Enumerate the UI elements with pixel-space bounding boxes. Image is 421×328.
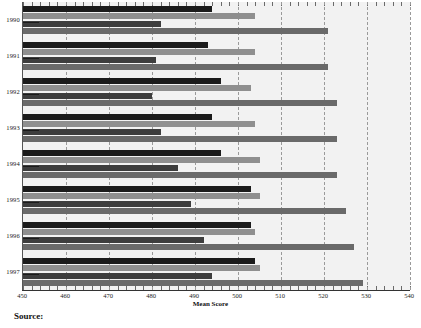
y-axis-label-1992: 1992 — [0, 88, 20, 95]
source-label: Source: — [14, 311, 43, 321]
bar-1996-series3 — [23, 237, 204, 243]
y-axis-label-1991: 1991 — [0, 52, 20, 59]
bar-1995-series3 — [23, 201, 191, 207]
bar-1996-series4 — [23, 244, 354, 250]
x-tick-label-540: 540 — [392, 292, 421, 299]
bar-1991-series1 — [23, 42, 208, 48]
x-tick-label-460: 460 — [48, 292, 82, 299]
bar-1993-series2 — [23, 121, 255, 127]
bar-group-1995 — [23, 182, 410, 218]
bar-1994-series1 — [23, 150, 221, 156]
bar-1994-series2 — [23, 157, 260, 163]
y-axis-label-1996: 1996 — [0, 232, 20, 239]
bar-1994-series3 — [23, 165, 178, 171]
y-axis-label-1990: 1990 — [0, 16, 20, 23]
x-axis-title: Mean Score — [0, 300, 421, 308]
x-tick-label-510: 510 — [263, 292, 297, 299]
x-tick-label-530: 530 — [349, 292, 383, 299]
bar-1996-series1 — [23, 222, 251, 228]
bar-group-1991 — [23, 38, 410, 74]
bar-1991-series3 — [23, 57, 156, 63]
y-axis-label-1997: 1997 — [0, 268, 20, 275]
bar-1997-series4 — [23, 280, 363, 286]
bar-1997-series1 — [23, 258, 255, 264]
y-axis-leader-1990 — [23, 22, 39, 23]
bar-1992-series1 — [23, 78, 221, 84]
bar-1992-series2 — [23, 85, 251, 91]
y-axis-year-labels: 19901991199219931994199519961997 — [0, 2, 22, 290]
plot-area — [22, 2, 410, 290]
bar-1990-series1 — [23, 6, 212, 12]
y-axis-label-1995: 1995 — [0, 196, 20, 203]
bar-1993-series3 — [23, 129, 161, 135]
bar-group-1992 — [23, 74, 410, 110]
bar-1992-series4 — [23, 100, 337, 106]
y-axis-leader-1995 — [23, 202, 39, 203]
bar-1990-series3 — [23, 21, 161, 27]
bar-group-1997 — [23, 254, 410, 290]
bar-1991-series2 — [23, 49, 255, 55]
x-tick-label-490: 490 — [177, 292, 211, 299]
bar-1997-series2 — [23, 265, 260, 271]
gridline-540 — [410, 2, 411, 290]
y-axis-leader-1997 — [23, 274, 39, 275]
x-tick-label-500: 500 — [220, 292, 254, 299]
y-axis-leader-1993 — [23, 130, 39, 131]
x-axis-line — [22, 290, 410, 291]
y-axis-leader-1996 — [23, 238, 39, 239]
bar-1990-series4 — [23, 28, 328, 34]
bar-1993-series1 — [23, 114, 212, 120]
chart-container: 19901991199219931994199519961997 4504604… — [0, 0, 421, 328]
bar-1995-series2 — [23, 193, 260, 199]
x-tick-label-520: 520 — [306, 292, 340, 299]
y-axis-leader-1992 — [23, 94, 39, 95]
x-tick-label-480: 480 — [134, 292, 168, 299]
y-axis-leader-1991 — [23, 58, 39, 59]
bar-1992-series3 — [23, 93, 152, 99]
bar-group-1990 — [23, 2, 410, 38]
y-axis-label-1994: 1994 — [0, 160, 20, 167]
x-tick-label-470: 470 — [91, 292, 125, 299]
y-axis-leader-1994 — [23, 166, 39, 167]
plot-wrapper: 19901991199219931994199519961997 4504604… — [0, 0, 421, 296]
bar-group-1996 — [23, 218, 410, 254]
bar-group-1993 — [23, 110, 410, 146]
x-tick-label-450: 450 — [5, 292, 39, 299]
bar-1995-series1 — [23, 186, 251, 192]
bar-1995-series4 — [23, 208, 346, 214]
bar-group-1994 — [23, 146, 410, 182]
bar-1991-series4 — [23, 64, 328, 70]
bar-1996-series2 — [23, 229, 255, 235]
bar-1993-series4 — [23, 136, 337, 142]
bar-1997-series3 — [23, 273, 212, 279]
y-axis-label-1993: 1993 — [0, 124, 20, 131]
bar-1990-series2 — [23, 13, 255, 19]
bar-1994-series4 — [23, 172, 337, 178]
